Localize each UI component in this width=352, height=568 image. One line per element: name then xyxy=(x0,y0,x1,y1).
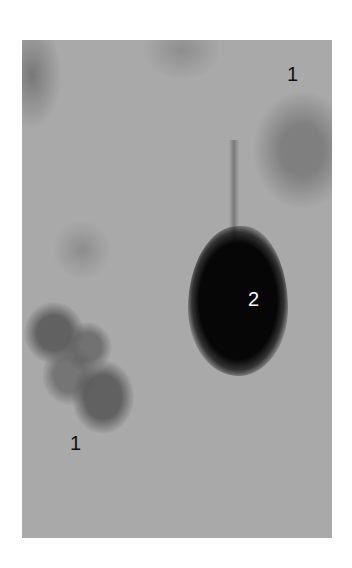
background-shading xyxy=(22,40,62,130)
cell-type-1-top-right xyxy=(252,90,332,210)
background-shading xyxy=(142,40,222,80)
cell-type-2-dark xyxy=(188,226,288,376)
label-1-top-right: 1 xyxy=(287,64,298,84)
label-1-bottom-left: 1 xyxy=(70,433,81,453)
label-2-center: 2 xyxy=(248,289,259,309)
cell-type-1-cluster xyxy=(72,360,134,434)
background-shading xyxy=(52,220,112,280)
micrograph-image xyxy=(22,40,332,538)
